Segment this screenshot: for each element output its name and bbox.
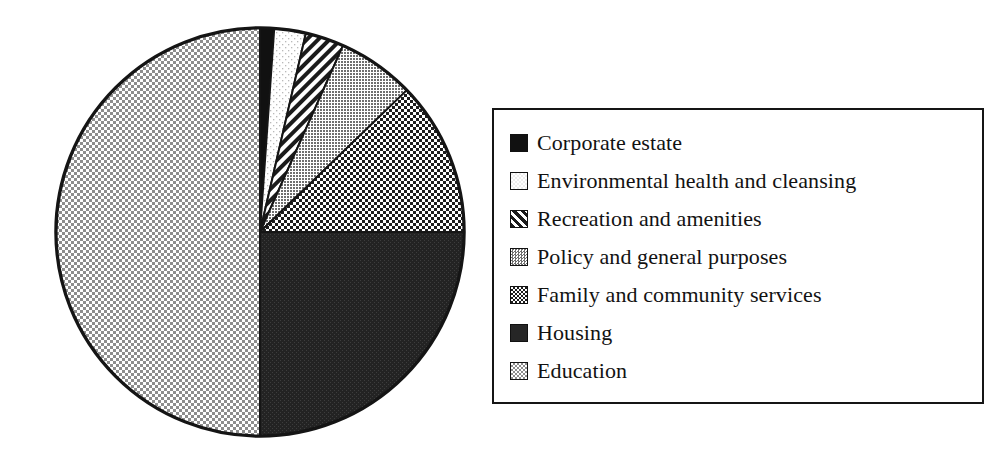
legend-swatch-solid-black [510, 134, 528, 152]
legend-swatch-sparse-dots-white [510, 172, 528, 190]
legend-item[interactable]: Education [510, 352, 982, 390]
legend-item[interactable]: Recreation and amenities [510, 200, 982, 238]
legend-swatch-fine-gray-dots [510, 248, 528, 266]
legend-item-label: Recreation and amenities [537, 208, 762, 230]
legend-swatch-dense-dark [510, 324, 528, 342]
legend-item-label: Policy and general purposes [537, 246, 787, 268]
legend-item[interactable]: Housing [510, 314, 982, 352]
legend-item-label: Housing [537, 322, 612, 344]
legend-item-label: Environmental health and cleansing [537, 170, 856, 192]
pie-svg [50, 22, 470, 442]
legend-item-label: Corporate estate [537, 132, 682, 154]
legend-item[interactable]: Family and community services [510, 276, 982, 314]
legend-item[interactable]: Policy and general purposes [510, 238, 982, 276]
legend-item-label: Family and community services [537, 284, 822, 306]
legend-item[interactable]: Environmental health and cleansing [510, 162, 982, 200]
pie-chart-figure: Corporate estateEnvironmental health and… [0, 0, 1005, 462]
pie-slices-group [57, 29, 464, 436]
legend-item[interactable]: Corporate estate [510, 124, 982, 162]
legend-swatch-diagonal-stripes [510, 210, 528, 228]
pie-chart-graphic [50, 22, 470, 442]
pie-slice[interactable] [57, 29, 260, 436]
legend-swatch-checkerboard-dark [510, 286, 528, 304]
pie-slice[interactable] [260, 232, 464, 436]
chart-legend: Corporate estateEnvironmental health and… [492, 108, 984, 404]
legend-swatch-checkerboard-light [510, 362, 528, 380]
legend-items-list: Corporate estateEnvironmental health and… [510, 124, 982, 390]
legend-item-label: Education [537, 360, 627, 382]
